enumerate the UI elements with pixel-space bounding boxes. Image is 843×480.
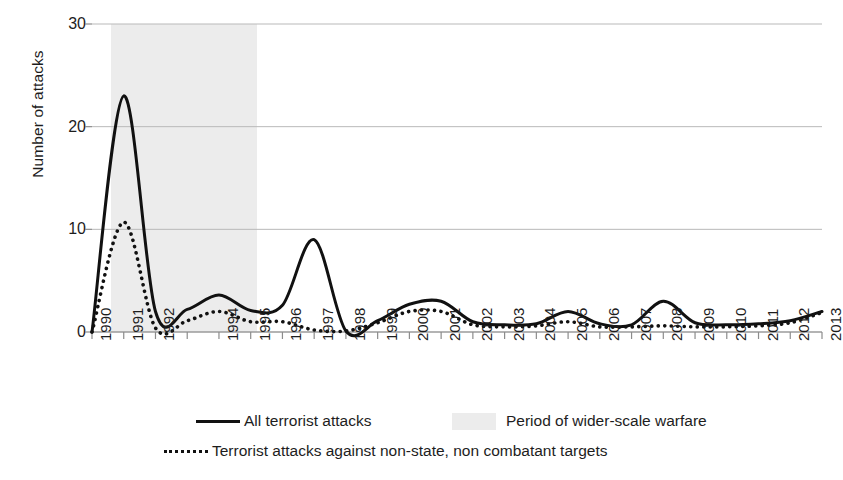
x-tick-label: 1996 — [288, 308, 303, 341]
x-axis-tick-labels: 1990199119921994199519961997199819992000… — [92, 338, 822, 404]
x-tick-label: 2005 — [574, 308, 589, 341]
chart-container: Number of attacks 0102030 19901991199219… — [0, 0, 843, 480]
x-tick-label: 1998 — [352, 308, 367, 341]
x-tick-label: 2007 — [638, 308, 653, 341]
plot-area — [92, 24, 822, 332]
legend-label-warfare-period: Period of wider-scale warfare — [506, 412, 707, 430]
x-tick-label: 2004 — [542, 308, 557, 341]
shaded-region-wider-scale-warfare — [111, 24, 257, 332]
x-tick-label: 2010 — [733, 308, 748, 341]
x-tick-label: 1991 — [130, 308, 145, 341]
x-tick-label: 1997 — [320, 308, 335, 341]
legend-item-nonstate-noncombatant-targets: Terrorist attacks against non-state, non… — [164, 442, 607, 460]
x-tick-label: 2012 — [796, 308, 811, 341]
x-tick-label: 2006 — [606, 308, 621, 341]
x-tick-label: 2013 — [828, 308, 843, 341]
legend-row-bottom: Terrorist attacks against non-state, non… — [0, 438, 843, 464]
y-tick-label: 10 — [38, 221, 86, 237]
dotted-line-swatch-icon — [164, 450, 208, 453]
x-tick-label: 2001 — [447, 308, 462, 341]
x-tick-label: 2002 — [479, 308, 494, 341]
x-tick-label: 2009 — [701, 308, 716, 341]
x-tick-label: 2003 — [511, 308, 526, 341]
legend-label-nonstate-targets: Terrorist attacks against non-state, non… — [212, 442, 607, 460]
shaded-band-swatch-icon — [452, 413, 496, 430]
y-tick-label: 30 — [38, 16, 86, 32]
legend-item-period-of-wider-scale-warfare: Period of wider-scale warfare — [452, 412, 707, 430]
x-tick-label: 2008 — [669, 308, 684, 341]
x-tick-label: 2000 — [415, 308, 430, 341]
y-tick-label: 20 — [38, 119, 86, 135]
x-tick-label: 2011 — [765, 309, 780, 341]
x-tick-label: 1992 — [161, 308, 176, 341]
legend-item-all-terrorist-attacks: All terrorist attacks — [196, 412, 371, 430]
solid-line-swatch-icon — [196, 420, 240, 423]
x-tick-label: 1994 — [225, 308, 240, 341]
x-tick-label: 1999 — [384, 308, 399, 341]
y-tick-label: 0 — [38, 324, 86, 340]
chart-legend: All terrorist attacks Period of wider-sc… — [0, 408, 843, 474]
chart-svg — [92, 24, 822, 332]
legend-label-all-attacks: All terrorist attacks — [244, 412, 371, 430]
legend-row-top: All terrorist attacks Period of wider-sc… — [0, 408, 843, 434]
x-tick-label: 1990 — [98, 308, 113, 341]
x-tick-label: 1995 — [257, 308, 272, 341]
